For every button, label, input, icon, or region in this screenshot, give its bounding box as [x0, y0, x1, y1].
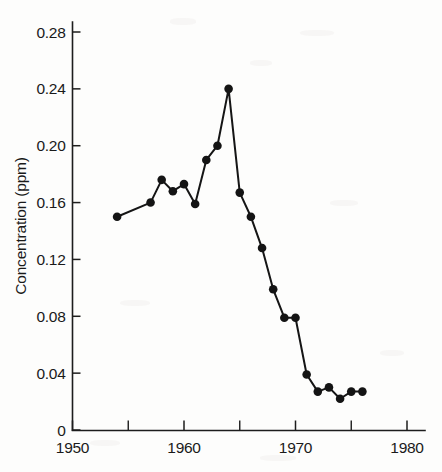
y-axis-tick-labels: 00.040.080.120.160.200.240.28	[37, 24, 67, 439]
data-point-1960	[180, 180, 189, 189]
y-tick-label-0.24: 0.24	[37, 80, 67, 97]
data-point-1958	[157, 176, 166, 185]
x-axis-minor-ticks	[128, 421, 351, 431]
x-tick-label-1970: 1970	[279, 439, 313, 456]
chart-figure: 00.040.080.120.160.200.240.28 1950196019…	[0, 0, 442, 472]
plot-axes	[73, 22, 426, 431]
y-tick-label-0.08: 0.08	[37, 308, 66, 325]
data-point-1962	[202, 156, 211, 165]
y-tick-label-0: 0	[57, 422, 66, 439]
x-tick-label-1960: 1960	[167, 439, 201, 456]
x-tick-label-1950: 1950	[56, 439, 90, 456]
data-point-1959	[169, 187, 178, 196]
x-tick-label-1980: 1980	[390, 439, 424, 456]
y-axis-ticks	[73, 32, 81, 430]
data-point-1968	[269, 285, 278, 294]
y-tick-label-0.28: 0.28	[37, 24, 66, 41]
y-axis-title: Concentration (ppm)	[12, 157, 29, 295]
data-point-1969	[280, 313, 289, 322]
data-series-line	[117, 89, 362, 399]
data-point-1975	[347, 387, 356, 396]
data-point-1965	[235, 188, 244, 197]
data-point-1966	[247, 212, 256, 221]
data-point-1954	[113, 212, 122, 221]
y-tick-label-0.12: 0.12	[37, 251, 66, 268]
data-point-1974	[336, 394, 345, 403]
data-point-markers	[113, 85, 367, 403]
y-tick-label-0.16: 0.16	[37, 194, 66, 211]
data-point-1964	[224, 85, 233, 94]
data-point-1976	[358, 387, 367, 396]
x-axis-tick-labels: 1950196019701980	[56, 439, 424, 456]
data-point-1971	[302, 370, 311, 379]
data-point-1972	[314, 387, 323, 396]
y-tick-label-0.20: 0.20	[37, 137, 67, 154]
data-point-1961	[191, 200, 200, 209]
data-point-1957	[146, 198, 155, 207]
data-point-1963	[213, 141, 222, 150]
y-tick-label-0.04: 0.04	[37, 365, 67, 382]
concentration-line-chart: 00.040.080.120.160.200.240.28 1950196019…	[0, 0, 442, 472]
data-point-1973	[325, 383, 334, 392]
data-point-1967	[258, 244, 267, 253]
data-point-1970	[291, 313, 300, 322]
